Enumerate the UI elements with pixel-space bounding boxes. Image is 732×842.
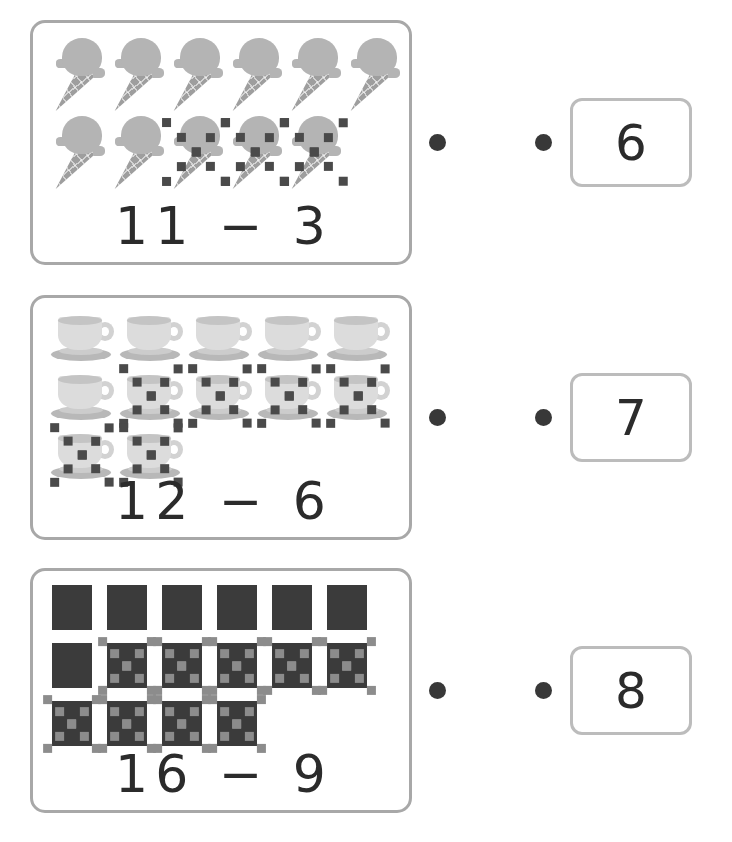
dark-square-icon bbox=[217, 701, 257, 746]
ice-cream-cone-icon bbox=[108, 37, 167, 112]
object-row bbox=[33, 585, 415, 635]
object-cell bbox=[159, 643, 214, 693]
object-cell bbox=[285, 115, 344, 190]
object-cell bbox=[214, 585, 269, 635]
answer-value-3: 8 bbox=[615, 666, 647, 716]
object-grid-1 bbox=[33, 37, 415, 193]
object-cell bbox=[108, 37, 167, 112]
dark-square-icon bbox=[217, 585, 257, 630]
problem-row-3: 16 − 9 8 bbox=[0, 568, 732, 823]
worksheet-page: 11 − 3 6 12 − 6 7 16 − 9 8 bbox=[0, 0, 732, 842]
object-cell bbox=[187, 312, 256, 367]
picture-card-1[interactable]: 11 − 3 bbox=[30, 20, 412, 265]
answer-box-1[interactable]: 6 bbox=[570, 98, 692, 187]
problem-row-1: 11 − 3 6 bbox=[0, 20, 732, 275]
object-cell bbox=[269, 643, 324, 693]
ice-cream-cone-icon bbox=[226, 115, 285, 190]
object-cell bbox=[256, 312, 325, 367]
object-cell bbox=[49, 115, 108, 190]
ice-cream-cone-icon bbox=[285, 37, 344, 112]
dark-square-icon bbox=[272, 643, 312, 688]
dark-square-icon bbox=[162, 643, 202, 688]
dark-square-icon bbox=[327, 585, 367, 630]
ice-cream-cone-icon bbox=[167, 37, 226, 112]
teacup-icon bbox=[118, 371, 187, 426]
object-cell bbox=[226, 115, 285, 190]
teacup-icon bbox=[256, 312, 325, 367]
connector-dot-left-3[interactable] bbox=[429, 682, 446, 699]
dark-square-icon bbox=[217, 643, 257, 688]
object-cell bbox=[325, 371, 394, 426]
object-cell bbox=[118, 371, 187, 426]
object-row bbox=[33, 643, 415, 693]
object-grid-3 bbox=[33, 585, 415, 759]
picture-card-2[interactable]: 12 − 6 bbox=[30, 295, 412, 540]
object-cell bbox=[108, 115, 167, 190]
dark-square-icon bbox=[107, 585, 147, 630]
object-cell bbox=[118, 312, 187, 367]
ice-cream-cone-icon bbox=[226, 37, 285, 112]
ice-cream-cone-icon bbox=[108, 115, 167, 190]
equation-3: 16 − 9 bbox=[33, 748, 415, 800]
object-cell bbox=[104, 643, 159, 693]
equation-1: 11 − 3 bbox=[33, 200, 415, 252]
object-cell bbox=[214, 643, 269, 693]
object-cell bbox=[49, 312, 118, 367]
object-cell bbox=[49, 585, 104, 635]
ice-cream-cone-icon bbox=[49, 115, 108, 190]
object-cell bbox=[187, 371, 256, 426]
answer-value-2: 7 bbox=[615, 393, 647, 443]
dark-square-icon bbox=[52, 643, 92, 688]
ice-cream-cone-icon bbox=[167, 115, 226, 190]
object-cell bbox=[285, 37, 344, 112]
teacup-icon bbox=[256, 371, 325, 426]
teacup-icon bbox=[187, 371, 256, 426]
connector-dot-left-2[interactable] bbox=[429, 409, 446, 426]
object-cell bbox=[49, 371, 118, 426]
connector-dot-right-1[interactable] bbox=[535, 134, 552, 151]
dark-square-icon bbox=[272, 585, 312, 630]
object-cell bbox=[49, 37, 108, 112]
picture-card-3[interactable]: 16 − 9 bbox=[30, 568, 412, 813]
object-cell bbox=[49, 701, 104, 751]
equation-2: 12 − 6 bbox=[33, 475, 415, 527]
dark-square-icon bbox=[162, 701, 202, 746]
object-cell bbox=[159, 585, 214, 635]
ice-cream-cone-icon bbox=[285, 115, 344, 190]
teacup-icon bbox=[187, 312, 256, 367]
object-cell bbox=[344, 37, 403, 112]
object-grid-2 bbox=[33, 312, 415, 489]
problem-row-2: 12 − 6 7 bbox=[0, 295, 732, 550]
object-cell bbox=[167, 115, 226, 190]
object-cell bbox=[324, 643, 379, 693]
answer-box-3[interactable]: 8 bbox=[570, 646, 692, 735]
object-cell bbox=[324, 585, 379, 635]
connector-dot-right-3[interactable] bbox=[535, 682, 552, 699]
object-row bbox=[33, 371, 415, 426]
object-cell bbox=[167, 37, 226, 112]
ice-cream-cone-icon bbox=[49, 37, 108, 112]
dark-square-icon bbox=[52, 701, 92, 746]
dark-square-icon bbox=[107, 701, 147, 746]
connector-dot-right-2[interactable] bbox=[535, 409, 552, 426]
object-cell bbox=[269, 585, 324, 635]
object-cell bbox=[49, 643, 104, 693]
teacup-icon bbox=[49, 371, 118, 426]
object-cell bbox=[325, 312, 394, 367]
dark-square-icon bbox=[327, 643, 367, 688]
object-row bbox=[33, 37, 415, 112]
object-row bbox=[33, 312, 415, 367]
connector-dot-left-1[interactable] bbox=[429, 134, 446, 151]
dark-square-icon bbox=[52, 585, 92, 630]
ice-cream-cone-icon bbox=[344, 37, 403, 112]
object-row bbox=[33, 115, 415, 190]
answer-box-2[interactable]: 7 bbox=[570, 373, 692, 462]
teacup-icon bbox=[325, 312, 394, 367]
object-cell bbox=[256, 371, 325, 426]
answer-value-1: 6 bbox=[615, 118, 647, 168]
dark-square-icon bbox=[162, 585, 202, 630]
object-cell bbox=[104, 585, 159, 635]
teacup-icon bbox=[49, 312, 118, 367]
teacup-icon bbox=[325, 371, 394, 426]
teacup-icon bbox=[118, 312, 187, 367]
